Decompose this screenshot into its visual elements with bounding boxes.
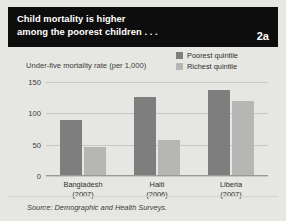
figure-title: Child mortality is higher among the poor… — [17, 12, 227, 38]
chart-subtitle: Under-five mortality rate (per 1,000) — [26, 61, 146, 70]
legend-item-poorest: Poorest quintile — [176, 50, 274, 60]
plot-area: 050100150 Bangladesh(2007)Haiti(2006)Lib… — [46, 82, 268, 176]
figure-title-banner: Child mortality is higher among the poor… — [8, 7, 278, 47]
y-axis-tick-label: 150 — [28, 78, 41, 87]
bar-poorest — [60, 120, 82, 175]
category-name: Liberia — [194, 180, 268, 190]
category-name: Haiti — [120, 180, 194, 190]
figure-panel: Child mortality is higher among the poor… — [0, 0, 286, 221]
y-axis-tick-label: 100 — [28, 109, 41, 118]
chart-legend: Poorest quintile Richest quintile — [176, 50, 274, 72]
chart-area: Under-five mortality rate (per 1,000) Po… — [0, 47, 286, 197]
category-year: (2007) — [46, 190, 120, 200]
figure-title-line-1: Child mortality is higher — [17, 12, 227, 25]
category-name: Bangladesh — [46, 180, 120, 190]
legend-swatch-richest — [176, 63, 183, 70]
bar-richest — [158, 140, 180, 175]
figure-number-badge: 2a — [257, 30, 269, 42]
bar-poorest — [134, 97, 156, 175]
axis-baseline — [46, 175, 268, 176]
legend-label-richest: Richest quintile — [187, 62, 237, 71]
bar-group: Liberia(2007) — [194, 81, 268, 175]
bar-group: Haiti(2006) — [120, 81, 194, 175]
y-axis-tick-label: 0 — [37, 172, 41, 181]
category-year: (2006) — [120, 190, 194, 200]
legend-item-richest: Richest quintile — [176, 61, 274, 71]
category-year: (2007) — [194, 190, 268, 200]
bar-poorest — [208, 90, 230, 175]
bar-group: Bangladesh(2007) — [46, 81, 120, 175]
source-note: Source: Demographic and Health Surveys. — [27, 203, 167, 212]
legend-label-poorest: Poorest quintile — [187, 51, 238, 60]
legend-swatch-poorest — [176, 52, 183, 59]
y-axis-tick-label: 50 — [33, 140, 41, 149]
figure-title-line-2: among the poorest children . . . — [17, 25, 227, 38]
gridline: 0 — [46, 176, 268, 177]
bar-richest — [232, 101, 254, 175]
source-divider — [8, 196, 278, 197]
bar-richest — [84, 147, 106, 175]
